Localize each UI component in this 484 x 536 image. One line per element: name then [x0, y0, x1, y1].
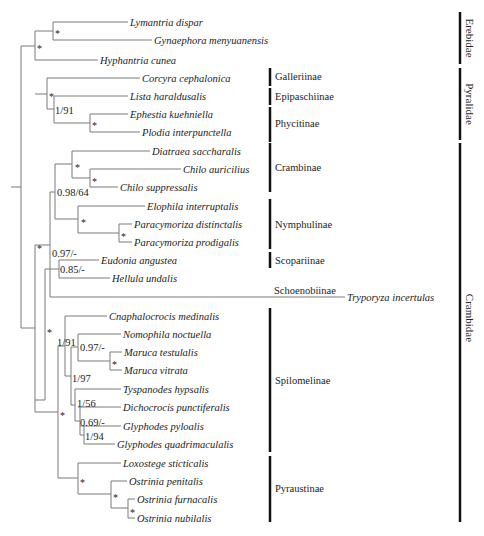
full-support-marker: *: [92, 120, 97, 131]
taxon-label: Hyphantria cunea: [99, 55, 176, 66]
full-support-marker: *: [75, 162, 80, 173]
support-value: 0.85/-: [60, 264, 85, 275]
full-support-marker: *: [37, 243, 42, 254]
taxon-labels: Lymantria disparGynaephora menyuanensisH…: [99, 17, 434, 524]
support-value: 0.97/-: [80, 342, 105, 353]
taxon-label: Ostrinia nubilalis: [137, 513, 211, 524]
taxon-label: Elophila interruptalis: [146, 201, 238, 212]
support-value: 0.97/-: [52, 248, 77, 259]
support-value: 1/94: [85, 431, 104, 442]
taxon-label: Tyspanodes hypsalis: [123, 384, 209, 395]
subfamily-label-schoenobiinae: Schoenobiinae: [274, 285, 336, 296]
family-annotations: ErebidaePyralidaeCrambidae: [460, 12, 476, 522]
taxon-label: Lista haraldusalis: [129, 91, 206, 102]
taxon-label: Chilo suppressalis: [120, 182, 198, 193]
taxon-label: Paracymoriza distinctalis: [133, 219, 242, 230]
taxon-label: Diatraea saccharalis: [151, 146, 241, 157]
family-label: Pyralidae: [464, 83, 476, 125]
full-support-marker: *: [47, 327, 52, 338]
taxon-label: Eudonia angustea: [100, 255, 177, 266]
full-support-marker: *: [37, 43, 42, 54]
subfamily-label: Scopariinae: [275, 255, 325, 266]
taxon-label: Ephestia kuehniella: [129, 109, 213, 120]
subfamily-label: Galleriinae: [275, 71, 322, 82]
subfamily-label: Nymphulinae: [275, 219, 332, 230]
taxon-label: Ostrinia furnacalis: [137, 494, 217, 505]
taxon-label: Glyphodes quadrimaculalis: [117, 439, 233, 450]
support-value: 1/56: [77, 398, 96, 409]
taxon-label: Maruca vitrata: [123, 365, 188, 376]
taxon-label: Paracymoriza prodigalis: [133, 237, 239, 248]
taxon-label: Tryporyza incertulas: [347, 292, 434, 303]
taxon-label: Plodia interpunctella: [141, 127, 232, 138]
full-support-marker: *: [81, 217, 86, 228]
taxon-label: Dichocrocis punctiferalis: [122, 402, 230, 413]
subfamily-label: Spilomelinae: [275, 375, 331, 386]
subfamily-label: Crambinae: [275, 162, 321, 173]
taxon-label: Loxostege sticticalis: [122, 458, 208, 469]
taxon-label: Cnaphalocrocis medinalis: [109, 311, 219, 322]
full-support-marker: *: [80, 477, 85, 488]
full-support-marker: *: [55, 28, 60, 39]
taxon-label: Maruca testulalis: [123, 347, 198, 358]
support-value: 0.69/-: [80, 417, 105, 428]
subfamily-label: Pyraustinae: [275, 483, 324, 494]
full-support-marker: *: [121, 231, 126, 242]
full-support-marker: *: [60, 410, 65, 421]
full-support-marker: *: [113, 492, 118, 503]
support-value: 1/91: [57, 337, 76, 348]
support-value: 1/91: [55, 105, 74, 116]
subfamily-label: Phycitinae: [275, 118, 320, 129]
taxon-label: Nomophila noctuella: [122, 329, 211, 340]
subfamily-label: Epipaschiinae: [275, 91, 334, 102]
full-support-marker: *: [130, 507, 135, 518]
taxon-label: Hellula undalis: [111, 273, 177, 284]
full-support-marker: *: [112, 359, 117, 370]
family-label: Crambidae: [464, 294, 476, 342]
taxon-label: Chilo auricilius: [183, 164, 249, 175]
taxon-label: Lymantria dispar: [129, 17, 204, 28]
subfamily-annotations: GalleriinaeEpipaschiinaePhycitinaeCrambi…: [270, 68, 336, 522]
taxon-label: Gynaephora menyuanensis: [154, 35, 268, 46]
taxon-label: Ostrinia penitalis: [129, 476, 203, 487]
taxon-label: Glyphodes pyloalis: [123, 421, 204, 432]
full-support-marker: *: [49, 91, 54, 102]
family-label: Erebidae: [464, 18, 476, 57]
support-value: 0.98/64: [57, 187, 90, 198]
taxon-label: Corcyra cephalonica: [142, 73, 231, 84]
full-support-marker: *: [92, 176, 97, 187]
phylogenetic-tree: Lymantria disparGynaephora menyuanensisH…: [0, 0, 484, 536]
support-value: 1/97: [72, 373, 91, 384]
